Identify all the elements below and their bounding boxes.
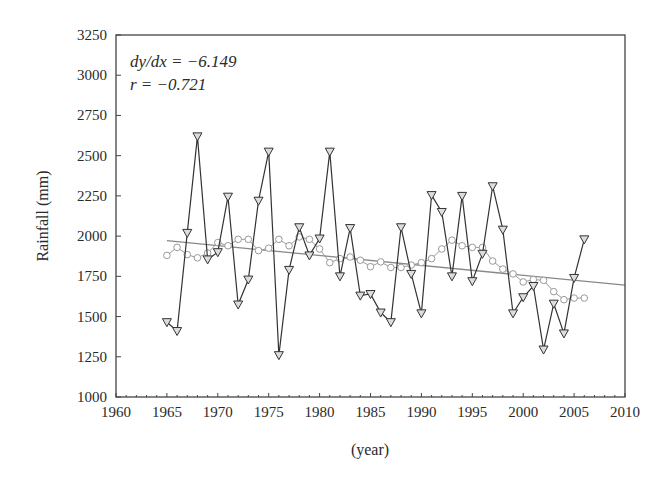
rainfall-point	[244, 276, 253, 284]
rainfall-point	[488, 183, 497, 191]
moving-average-point	[520, 279, 527, 286]
y-tick-label: 1750	[77, 268, 107, 284]
moving-average-point	[357, 257, 364, 264]
rainfall-point	[183, 229, 192, 237]
moving-average-point	[347, 254, 354, 261]
correlation-annotation: r = −0.721	[130, 75, 206, 94]
moving-average-point	[581, 295, 588, 302]
moving-average-point	[225, 242, 232, 249]
x-tick-label: 2000	[508, 404, 538, 420]
rainfall-point	[458, 192, 467, 200]
rainfall-point	[549, 300, 558, 308]
x-tick-label: 1960	[101, 404, 131, 420]
y-tick-label: 1250	[77, 349, 107, 365]
rainfall-point	[407, 270, 416, 278]
x-tick-label: 1975	[254, 404, 284, 420]
moving-average-point	[316, 246, 323, 253]
rainfall-point	[417, 310, 426, 318]
moving-average-point	[530, 276, 537, 283]
x-tick-label: 2010	[610, 404, 640, 420]
moving-average-point	[367, 263, 374, 270]
y-tick-label: 3250	[77, 27, 107, 43]
moving-average-series	[164, 234, 588, 303]
rainfall-point	[539, 346, 548, 354]
rainfall-point	[468, 278, 477, 286]
rainfall-point	[264, 148, 273, 156]
moving-average-point	[388, 264, 395, 271]
moving-average-point	[265, 245, 272, 252]
x-tick-label: 1995	[457, 404, 487, 420]
y-axis-title: Rainfall (mm)	[34, 170, 52, 261]
rainfall-point	[335, 273, 344, 281]
moving-average-point	[398, 264, 405, 271]
rainfall-point	[315, 235, 324, 243]
y-tick-label: 3000	[77, 67, 107, 83]
rainfall-point	[478, 250, 487, 258]
y-tick-label: 2000	[77, 228, 107, 244]
rainfall-point	[193, 133, 202, 141]
rainfall-point	[173, 328, 182, 336]
moving-average-point	[337, 255, 344, 262]
rainfall-point	[509, 310, 518, 318]
moving-average-point	[489, 258, 496, 265]
moving-average-point	[479, 244, 486, 251]
moving-average-point	[428, 255, 435, 262]
x-tick-label: 1980	[305, 404, 335, 420]
rainfall-point	[305, 252, 314, 260]
rainfall-point	[295, 224, 304, 232]
moving-average-point	[500, 266, 507, 273]
rainfall-point	[234, 301, 243, 309]
moving-average-point	[255, 247, 262, 254]
rainfall-point	[325, 148, 334, 156]
moving-average-point	[194, 255, 201, 262]
moving-average-point	[174, 244, 181, 251]
moving-average-point	[510, 271, 517, 278]
rainfall-point	[519, 294, 528, 302]
rainfall-point	[397, 224, 406, 232]
rainfall-point	[213, 249, 222, 257]
rainfall-point	[285, 266, 294, 274]
rainfall-point	[570, 274, 579, 282]
x-tick-label: 1970	[203, 404, 233, 420]
moving-average-point	[326, 259, 333, 266]
rainfall-point	[356, 292, 365, 300]
moving-average-point	[418, 259, 425, 266]
moving-average-point	[449, 237, 456, 244]
x-tick-label: 1990	[406, 404, 436, 420]
y-tick-label: 1500	[77, 309, 107, 325]
rainfall-chart: 1000125015001750200022502500275030003250…	[0, 0, 670, 479]
slope-annotation: dy/dx = −6.149	[130, 52, 237, 71]
y-tick-label: 2250	[77, 188, 107, 204]
moving-average-point	[540, 277, 547, 284]
y-tick-label: 2750	[77, 107, 107, 123]
rainfall-point	[346, 225, 355, 233]
moving-average-point	[276, 236, 283, 243]
rainfall-point	[427, 192, 436, 200]
moving-average-point	[306, 236, 313, 243]
moving-average-point	[235, 236, 242, 243]
x-axis-title: (year)	[351, 441, 389, 459]
rainfall-point	[386, 319, 395, 327]
y-tick-label: 2500	[77, 148, 107, 164]
x-tick-label: 1985	[356, 404, 386, 420]
rainfall-point	[437, 208, 446, 216]
rainfall-point	[254, 197, 263, 205]
rainfall-point	[223, 193, 232, 201]
rainfall-point	[498, 226, 507, 234]
rainfall-point	[559, 330, 568, 338]
rainfall-point	[580, 236, 589, 244]
rainfall-point	[274, 352, 283, 360]
moving-average-point	[459, 242, 466, 249]
moving-average-point	[438, 246, 445, 253]
moving-average-point	[469, 244, 476, 251]
x-tick-label: 1965	[152, 404, 182, 420]
moving-average-point	[245, 236, 252, 243]
moving-average-point	[571, 295, 578, 302]
moving-average-point	[550, 288, 557, 295]
rainfall-point	[447, 273, 456, 281]
moving-average-point	[377, 259, 384, 266]
y-tick-label: 1000	[77, 389, 107, 405]
moving-average-point	[561, 296, 568, 303]
rainfall-point	[203, 256, 212, 264]
x-tick-label: 2005	[559, 404, 589, 420]
